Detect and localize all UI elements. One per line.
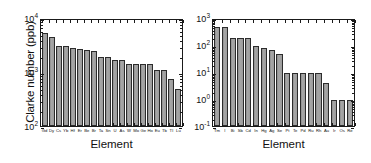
x-tick-mark [134,123,135,126]
y-minor-tick-mark [180,41,182,42]
x-tick-label: Gd [41,128,48,133]
y-minor-tick-mark [180,28,182,29]
y-minor-tick-mark [213,85,215,86]
x-tick-mark [155,20,156,23]
bar [276,54,282,126]
x-tick-mark [332,20,333,23]
x-tick-mark [77,123,78,126]
bar [98,57,104,126]
x-tick-mark [63,20,64,23]
x-tick-mark [214,20,215,23]
x-tick-label: W [126,128,133,133]
y-minor-tick-mark [213,31,215,32]
bar [308,73,314,126]
bar [323,83,329,126]
y-minor-tick-mark [352,39,354,40]
x-tick-label: Hg [260,128,268,133]
y-minor-tick-mark [213,78,215,79]
bar [261,48,267,126]
bar [230,38,236,126]
x-tick-mark [269,123,270,126]
bar-series-right [213,20,354,126]
x-tick-label: Ir [330,128,338,133]
x-tick-mark [127,123,128,126]
x-tick-mark [56,20,57,23]
x-tick-mark [214,123,215,126]
y-minor-tick-mark [213,115,215,116]
x-tick-mark [261,20,262,23]
y-minor-tick-mark [213,75,215,76]
x-axis-title-left: Element [40,138,183,150]
y-minor-tick-mark [352,21,354,22]
y-minor-tick-mark [352,53,354,54]
y-axis-tick-labels-left: 102103104 [12,19,38,127]
y-minor-tick-mark [213,80,215,81]
bar [168,79,174,126]
x-tick-label: Er [76,128,83,133]
x-tick-label: Re [346,128,354,133]
y-minor-tick-mark [352,120,354,121]
y-minor-tick-mark [41,90,43,91]
x-tick-label: Cd [244,128,252,133]
y-minor-tick-mark [41,86,43,87]
x-tick-mark [155,123,156,126]
x-tick-mark [169,20,170,23]
x-tick-mark [292,20,293,23]
y-minor-tick-mark [352,105,354,106]
x-tick-label: Yb [62,128,69,133]
x-tick-mark [222,20,223,23]
x-tick-mark [148,123,149,126]
y-minor-tick-mark [352,28,354,29]
x-tick-mark [49,123,50,126]
y-minor-tick-mark [180,82,182,83]
y-tick-mark [179,74,182,75]
x-tick-label: Bi [229,128,237,133]
y-minor-tick-mark [41,41,43,42]
bar [253,46,259,126]
x-tick-label: Be [83,128,90,133]
x-tick-mark [308,20,309,23]
x-tick-mark [127,20,128,23]
bar [315,73,321,126]
x-tick-mark [238,123,239,126]
y-minor-tick-mark [352,112,354,113]
y-tick-label: 103 [24,69,38,78]
y-minor-tick-mark [180,90,182,91]
y-minor-tick-mark [213,39,215,40]
x-tick-mark [324,20,325,23]
x-tick-mark [269,20,270,23]
x-tick-mark [347,20,348,23]
x-tick-mark [162,123,163,126]
y-minor-tick-mark [352,55,354,56]
y-minor-tick-mark [41,76,43,77]
y-minor-tick-mark [352,78,354,79]
plot-area-left [40,19,183,127]
bar [91,51,97,126]
x-tick-label: In [252,128,260,133]
x-tick-label: Eu [154,128,161,133]
x-tick-label: Mo [133,128,140,133]
y-tick-label: 102 [196,42,210,51]
bar [161,70,167,126]
x-tick-mark [277,123,278,126]
x-tick-mark [91,123,92,126]
x-tick-mark [238,20,239,23]
y-minor-tick-mark [213,48,215,49]
x-tick-mark [253,20,254,23]
y-minor-tick-mark [41,32,43,33]
y-minor-tick-mark [41,28,43,29]
x-tick-mark [70,123,71,126]
y-minor-tick-mark [213,55,215,56]
x-tick-mark [253,123,254,126]
x-tick-label: As [119,128,126,133]
y-minor-tick-mark [213,82,215,83]
x-tick-mark [113,123,114,126]
y-minor-tick-mark [180,48,182,49]
y-minor-tick-mark [213,109,215,110]
y-minor-tick-mark [352,107,354,108]
x-tick-label: Tb [161,128,168,133]
y-minor-tick-mark [213,34,215,35]
x-tick-mark [261,123,262,126]
bar [284,73,290,126]
y-minor-tick-mark [41,95,43,96]
